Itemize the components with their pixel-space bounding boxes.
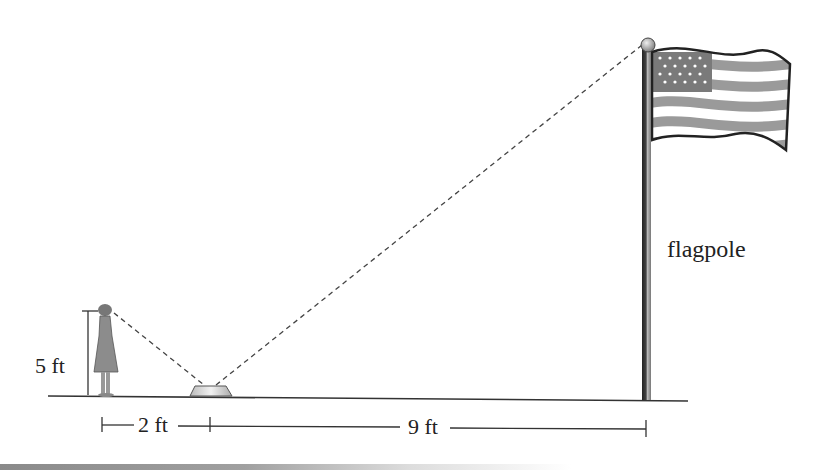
- height-marker: [82, 311, 98, 395]
- person-figure: [94, 304, 118, 397]
- mirror-to-pole-label: 9 ft: [406, 416, 440, 438]
- mirror-icon: [190, 386, 232, 396]
- person-to-mirror-label: 2 ft: [136, 414, 170, 436]
- bottom-edge-strip: [0, 464, 816, 470]
- sight-line-mirror-to-top: [216, 45, 642, 385]
- flag-icon: [640, 30, 800, 160]
- person-height-label: 5 ft: [33, 355, 67, 377]
- distance-dimension-line: [102, 417, 646, 437]
- mirror-flagpole-diagram: 5 ft 2 ft 9 ft flagpole: [0, 0, 816, 470]
- diagram-canvas: [0, 0, 816, 470]
- sight-line-eye-to-mirror: [114, 313, 204, 385]
- ground-line: [48, 396, 688, 401]
- flagpole-icon: [642, 46, 651, 400]
- flagpole-label: flagpole: [665, 237, 748, 261]
- flagpole-ball-icon: [641, 38, 655, 52]
